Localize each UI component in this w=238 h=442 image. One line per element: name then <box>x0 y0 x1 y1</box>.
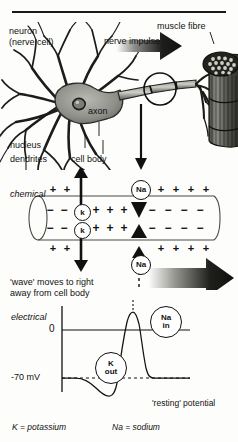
svg-text:+: + <box>106 203 113 217</box>
label-neuron: neuron <box>9 26 37 36</box>
label-resting-potential: 'resting' potential <box>152 398 215 408</box>
svg-text:+: + <box>64 242 70 254</box>
svg-text:+: + <box>173 242 179 254</box>
label-cell-body: cell body <box>71 154 107 164</box>
svg-text:+: + <box>158 183 164 195</box>
svg-text:−: − <box>46 221 53 235</box>
key-potassium: K = potassium <box>12 422 66 432</box>
svg-text:−: − <box>60 203 67 217</box>
cell-body-soma <box>55 83 123 123</box>
sodium-in-annotation: Na in <box>150 306 182 338</box>
svg-text:−: − <box>148 203 155 217</box>
sodium-ion-circle-top: Na <box>131 180 151 200</box>
nucleus-shape <box>73 98 85 109</box>
label-nucleus: nucleus <box>10 140 41 150</box>
wave-direction-arrow <box>148 258 234 290</box>
top-divider-rule <box>12 11 226 13</box>
label-axon: axon <box>88 106 108 116</box>
label-nerve-cell: (nerve cell) <box>9 37 54 47</box>
svg-text:−: − <box>46 203 53 217</box>
svg-text:−: − <box>180 203 187 217</box>
sodium-in-arrow-down <box>131 202 147 218</box>
label-muscle-fibre: muscle fibre <box>157 21 206 31</box>
sodium-in-arrow-up <box>131 224 147 238</box>
axon-shape <box>118 80 196 100</box>
svg-text:+: + <box>120 203 127 217</box>
svg-text:+: + <box>188 183 194 195</box>
svg-text:+: + <box>92 203 99 217</box>
inner-charges-row2: −− +++ −− −− <box>46 221 203 235</box>
svg-text:+: + <box>64 183 70 195</box>
svg-text:+: + <box>120 221 127 235</box>
svg-text:+: + <box>50 242 56 254</box>
label-wave-direction: 'wave' moves to right away from cell bod… <box>10 277 93 298</box>
graph-ytick-resting: -70 mV <box>11 372 40 382</box>
outer-charges-bottom-right: ++ ++ <box>158 242 209 254</box>
svg-text:+: + <box>203 183 209 195</box>
svg-text:+: + <box>158 242 164 254</box>
svg-text:−: − <box>164 221 171 235</box>
graph-ytick-zero: 0 <box>49 324 55 334</box>
outer-charges-top-left: ++ <box>50 183 70 195</box>
potassium-ion-circle-top: k <box>74 204 91 221</box>
svg-text:+: + <box>188 242 194 254</box>
svg-text:+: + <box>106 221 113 235</box>
svg-text:−: − <box>196 221 203 235</box>
svg-text:−: − <box>148 221 155 235</box>
sodium-ion-circle-bottom: Na <box>131 255 151 275</box>
potassium-out-annotation: K out <box>95 352 127 384</box>
inner-charges-row1: −− +++ −− −− <box>46 203 203 217</box>
potassium-out-arrow-up <box>74 168 88 206</box>
label-dendrites: dendrites <box>10 154 47 164</box>
svg-text:+: + <box>92 221 99 235</box>
label-electrical: electrical <box>11 312 47 322</box>
potassium-out-line2: out <box>105 368 117 376</box>
label-nerve-impulse: nerve impulse <box>104 36 160 46</box>
impulse-down-arrow <box>135 104 147 170</box>
svg-text:+: + <box>203 242 209 254</box>
outer-charges-bottom-left: ++ <box>50 242 70 254</box>
label-chemical: chemical <box>10 189 46 199</box>
svg-text:−: − <box>60 221 67 235</box>
svg-text:+: + <box>173 183 179 195</box>
svg-text:+: + <box>50 183 56 195</box>
sodium-in-line2: in <box>162 322 169 330</box>
svg-text:−: − <box>164 203 171 217</box>
figure-page: neuron (nerve cell) nerve impulse muscle… <box>0 0 238 442</box>
outer-charges-top-right: ++ ++ <box>158 183 209 195</box>
key-sodium: Na = sodium <box>112 422 160 432</box>
svg-text:−: − <box>196 203 203 217</box>
membrane-ion-diagram: ++ ++ ++ −− +++ −− −− −− +++ −− −− <box>0 168 238 290</box>
potassium-ion-circle-bottom: k <box>74 222 91 239</box>
svg-text:−: − <box>180 221 187 235</box>
